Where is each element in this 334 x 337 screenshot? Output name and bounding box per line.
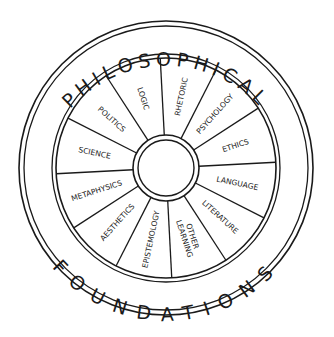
sector-label-line: RHETORIC	[173, 77, 190, 117]
sector-label-other-learning: OTHERLEARNING	[174, 216, 203, 259]
sector-label-science: SCIENCE	[78, 145, 112, 161]
sector-divider	[56, 170, 133, 174]
sector-label-epistemology: EPISTEMOLOGY	[141, 210, 162, 269]
sector-label-politics: POLITICS	[96, 105, 127, 135]
title-top-text: PHILOSOPHICAL	[57, 48, 275, 112]
sector-labels: RHETORICPSYCHOLOGYETHICSLANGUAGELITERATU…	[70, 77, 259, 269]
title-bottom-arc: FOUNDATIONS	[49, 255, 284, 325]
sector-label-line: POLITICS	[96, 105, 127, 135]
title-top-arc: PHILOSOPHICAL	[57, 48, 275, 112]
sector-label-logic: LOGIC	[135, 86, 151, 111]
sector-label-ethics: ETHICS	[221, 137, 250, 154]
sector-label-line: ETHICS	[221, 137, 250, 154]
sector-label-line: SCIENCE	[78, 145, 112, 161]
hub-outer-circle	[133, 135, 199, 201]
sector-label-line: METAPHYSICS	[70, 178, 123, 203]
sector-label-language: LANGUAGE	[216, 175, 260, 193]
sector-label-line: LANGUAGE	[216, 175, 260, 193]
sector-label-metaphysics: METAPHYSICS	[70, 178, 123, 203]
hub-inner-circle	[138, 140, 194, 196]
sector-label-line: EPISTEMOLOGY	[141, 210, 162, 269]
philosophical-foundations-wheel: PHILOSOPHICAL FOUNDATIONS RHETORICPSYCHO…	[0, 0, 334, 337]
sector-label-rhetoric: RHETORIC	[173, 77, 190, 117]
sector-divider	[199, 162, 276, 166]
title-bottom-text: FOUNDATIONS	[49, 255, 284, 325]
sector-divider	[168, 201, 172, 278]
sector-label-line: LOGIC	[135, 86, 151, 111]
